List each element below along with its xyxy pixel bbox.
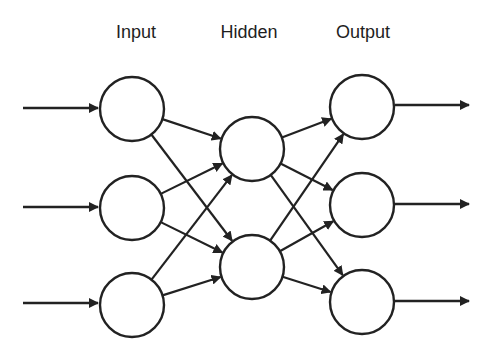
input-node-i2 [100, 176, 164, 240]
output-node-o2 [330, 173, 394, 237]
hidden-node-h1 [220, 117, 284, 181]
neural-network-diagram: Input Hidden Output [0, 0, 494, 354]
input-node-i3 [100, 273, 164, 337]
edge-i3-h2 [163, 277, 221, 295]
input-node-i1 [100, 77, 164, 141]
edge-i2-h1 [161, 164, 223, 194]
network-graph [0, 0, 494, 354]
edge-h2-o3 [282, 277, 330, 292]
edge-h1-o1 [282, 119, 331, 138]
output-node-o1 [330, 75, 394, 139]
nodes [100, 75, 394, 337]
hidden-node-h2 [220, 235, 284, 299]
output-node-o3 [330, 270, 394, 334]
edge-i1-h1 [162, 119, 220, 138]
